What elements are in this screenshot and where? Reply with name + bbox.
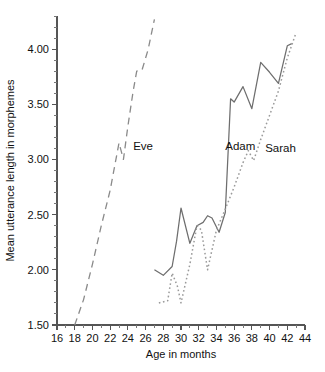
x-tick-label: 34 xyxy=(210,332,222,344)
x-tick-label: 40 xyxy=(263,332,275,344)
chart-axes xyxy=(57,16,305,325)
series-label-adam: Adam xyxy=(225,140,255,152)
x-tick-label: 28 xyxy=(157,332,169,344)
x-tick-label: 42 xyxy=(281,332,293,344)
x-tick-label: 36 xyxy=(228,332,240,344)
chart-canvas: 1618202224262830323436384042441.502.002.… xyxy=(0,0,325,372)
y-tick-label: 3.00 xyxy=(28,153,49,165)
y-tick-label: 2.00 xyxy=(28,264,49,276)
x-axis-title: Age in months xyxy=(146,348,217,360)
x-tick-label: 20 xyxy=(86,332,98,344)
x-tick-label: 16 xyxy=(51,332,63,344)
x-tick-label: 44 xyxy=(299,332,311,344)
x-tick-label: 24 xyxy=(122,332,134,344)
x-tick-label: 32 xyxy=(193,332,205,344)
series-line-eve xyxy=(75,19,155,325)
series-label-eve: Eve xyxy=(133,140,153,152)
x-tick-label: 22 xyxy=(104,332,116,344)
x-tick-label: 30 xyxy=(175,332,187,344)
y-axis-title: Mean utterance length in morphemes xyxy=(4,79,16,262)
mlu-growth-chart: 1618202224262830323436384042441.502.002.… xyxy=(0,0,325,372)
y-tick-label: 2.50 xyxy=(28,209,49,221)
y-tick-label: 4.00 xyxy=(28,43,49,55)
series-line-adam xyxy=(154,44,291,276)
y-tick-label: 3.50 xyxy=(28,98,49,110)
x-tick-label: 26 xyxy=(139,332,151,344)
y-tick-label: 1.50 xyxy=(28,319,49,331)
x-tick-label: 18 xyxy=(69,332,81,344)
series-label-sarah: Sarah xyxy=(265,142,296,154)
x-tick-label: 38 xyxy=(246,332,258,344)
